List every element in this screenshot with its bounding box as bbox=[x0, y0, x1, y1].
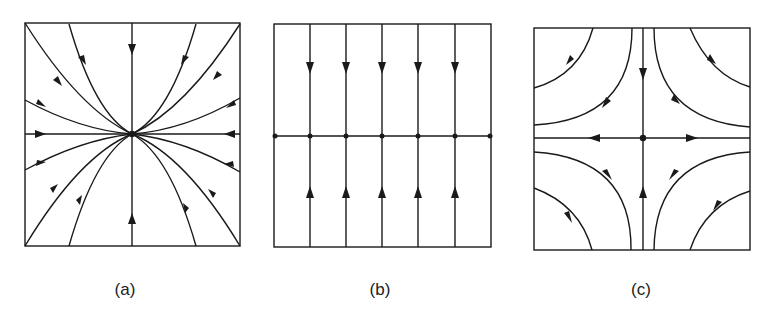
panel-a-stable-node bbox=[25, 23, 240, 246]
phase-portraits bbox=[0, 0, 771, 316]
panel-b-line-of-equilibria bbox=[273, 24, 493, 247]
panel-c-saddle bbox=[534, 28, 750, 250]
panel-a-label: (a) bbox=[115, 280, 136, 300]
panel-c-label: (c) bbox=[631, 280, 651, 300]
panel-b-label: (b) bbox=[370, 280, 391, 300]
equilibrium-point bbox=[130, 132, 135, 137]
